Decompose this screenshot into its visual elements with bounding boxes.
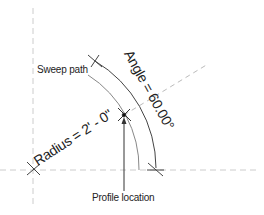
diagram-canvas bbox=[0, 0, 264, 215]
arrow-up-icon bbox=[122, 117, 127, 124]
arc-start-marker-icon bbox=[88, 55, 102, 67]
profile-location-label: Profile location bbox=[92, 193, 154, 203]
sweep-path-label: Sweep path bbox=[37, 65, 88, 75]
sweep-diagram: Sweep path Angle = 60.00° Radius = 2' - … bbox=[0, 0, 264, 215]
